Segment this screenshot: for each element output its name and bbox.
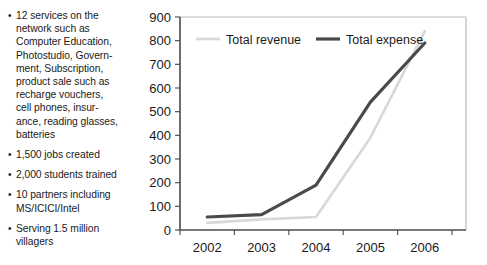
axis-lines (180, 17, 466, 230)
y-tick-label: 0 (164, 223, 171, 238)
bullet-point-icon: • (8, 148, 16, 161)
bullet-item-students: •2,000 students trained (8, 168, 132, 181)
bullet-text: 2,000 students trained (16, 168, 132, 181)
bullet-text: 1,500 jobs created (16, 148, 132, 161)
legend-label-total-revenue: Total revenue (226, 33, 301, 47)
bullet-item-jobs: •1,500 jobs created (8, 148, 132, 161)
x-tick-label: 2006 (410, 240, 439, 255)
bullet-item-services: •12 services on the network such as Comp… (8, 9, 132, 141)
y-tick-label: 900 (149, 10, 171, 25)
bullet-item-partners: •10 partners including MS/ICICI/Intel (8, 188, 132, 214)
y-tick-label: 200 (149, 175, 171, 190)
y-tick-label: 500 (149, 104, 171, 119)
y-tick-label: 800 (149, 33, 171, 48)
chart-legend: Total revenueTotal expense (196, 33, 423, 47)
plot-area-border (180, 17, 466, 230)
x-tick-label: 2003 (247, 240, 276, 255)
bullet-text: 10 partners including MS/ICICI/Intel (16, 188, 132, 214)
chart-svg: 0100200300400500600700800900 20022003200… (134, 0, 487, 265)
series-line-total-expense (207, 43, 425, 217)
bullet-point-icon: • (8, 188, 16, 201)
data-series-group (207, 31, 425, 223)
x-axis-ticks: 20022003200420052006 (180, 230, 452, 255)
bullet-text: 12 services on the network such as Compu… (16, 9, 132, 141)
bullet-item-villagers: •Serving 1.5 million villagers (8, 222, 132, 248)
y-tick-label: 400 (149, 128, 171, 143)
x-tick-label: 2005 (356, 240, 385, 255)
bullet-point-icon: • (8, 222, 16, 235)
x-tick-label: 2004 (302, 240, 331, 255)
x-tick-label: 2002 (193, 240, 222, 255)
y-tick-label: 100 (149, 199, 171, 214)
bullet-list: •12 services on the network such as Comp… (0, 0, 134, 265)
y-tick-label: 700 (149, 57, 171, 72)
bullet-point-icon: • (8, 168, 16, 181)
series-line-total-revenue (207, 31, 425, 223)
slide-content: •12 services on the network such as Comp… (0, 0, 487, 265)
bullet-point-icon: • (8, 9, 16, 22)
y-axis-ticks: 0100200300400500600700800900 (149, 10, 180, 238)
y-tick-label: 600 (149, 81, 171, 96)
bullet-text: Serving 1.5 million villagers (16, 222, 132, 248)
legend-label-total-expense: Total expense (346, 33, 423, 47)
y-tick-label: 300 (149, 152, 171, 167)
line-chart: 0100200300400500600700800900 20022003200… (134, 0, 487, 265)
